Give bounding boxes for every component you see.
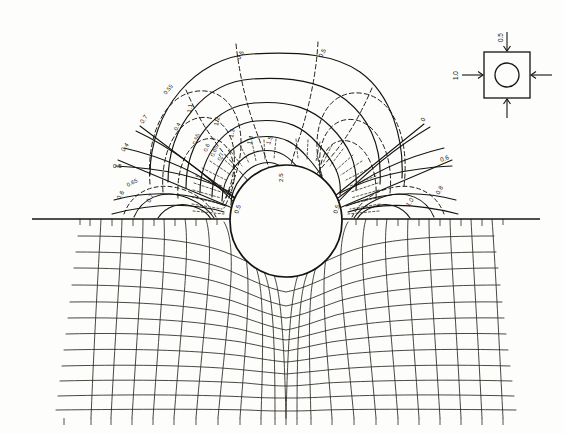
inset-vertical-load-label: 0.5 [497, 33, 504, 42]
circular-inclusion [230, 165, 342, 277]
stress-contour-figure: 0.5 0.5 0.55 1.1 1.2 1.3 1.4 1.5 2.5 0.4… [0, 0, 564, 434]
figure-root: 0.5 0.5 0.55 1.1 1.2 1.3 1.4 1.5 2.5 0.4… [0, 0, 564, 434]
inset-horizontal-load-label: 1.0 [452, 71, 459, 80]
peak-stress-label: 2.5 [277, 173, 284, 182]
trajectory-label: 0.5 [113, 162, 122, 169]
